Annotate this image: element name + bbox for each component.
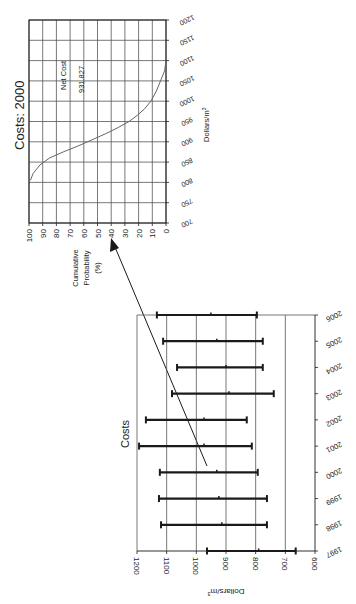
dollar-tick-label: 1150	[179, 34, 196, 47]
bottom-chart-ylabel: Dollars/m3	[208, 587, 245, 597]
bottom-ylabel-text: Dollars/m	[210, 587, 244, 596]
year-tick-label: 2001	[325, 440, 344, 455]
year-tick-label: 2002	[325, 414, 344, 429]
year-tick-label: 2005	[325, 335, 344, 350]
year-tick-label: 2004	[325, 361, 344, 376]
top-chart-ylabel: Cumulative Probability (%)	[71, 249, 102, 287]
bottom-chart-grid	[137, 315, 318, 554]
errorbar-1997	[207, 548, 296, 555]
probability-tick-label: 90	[39, 228, 48, 237]
top-chart-xlabel: Dollars/m3	[201, 107, 211, 142]
probability-tick-label: 40	[107, 228, 116, 237]
year-tick-label: 1998	[325, 518, 344, 533]
dollar-tick-label: 1200	[132, 557, 141, 575]
probability-tick-label: 30	[121, 228, 130, 237]
probability-tick-label: 100	[25, 228, 34, 242]
probability-tick-label: 50	[94, 228, 103, 237]
errorbar-2006	[157, 312, 257, 319]
bottom-chart-title: Costs	[119, 419, 131, 448]
dollar-tick-label: 950	[180, 116, 194, 127]
dollar-tick-label: 700	[280, 557, 289, 571]
dollar-tick-label: 1100	[162, 557, 171, 575]
errorbar-2003	[172, 390, 274, 397]
dollar-tick-label: 800	[251, 557, 260, 571]
dollar-tick-label: 850	[180, 157, 194, 168]
errorbar-series	[139, 312, 296, 555]
errorbar-2004	[177, 364, 263, 371]
dollar-tick-label: 1000	[178, 95, 195, 108]
dollar-tick-label: 800	[180, 177, 194, 188]
probability-tick-label: 10	[148, 228, 157, 237]
probability-tick-label: 60	[80, 228, 89, 237]
year-tick-label: 2000	[325, 466, 344, 481]
dollar-tick-labels: 70075080085090095010001050110011501200	[178, 14, 195, 229]
dollar-tick-label: 1000	[191, 557, 200, 575]
errorbar-2005	[163, 338, 263, 345]
top-xlabel-text: Dollars/m	[202, 110, 211, 142]
errorbar-1998	[161, 521, 267, 528]
year-tick-label: 2006	[325, 309, 344, 324]
top-chart-title: Costs: 2000	[12, 81, 27, 150]
dollar-tick-label: 1200	[178, 14, 195, 27]
dollar-tick-label: 1100	[179, 55, 196, 68]
dollar-axis-tick-labels: 120011001000900800700600	[132, 557, 319, 575]
year-tick-label: 2003	[325, 387, 344, 402]
errorbar-2000	[160, 469, 258, 476]
probability-tick-labels: 1009080706050403020100	[25, 228, 171, 242]
dollar-tick-label: 600	[310, 557, 319, 571]
ylabel-line-percent: (%)	[93, 262, 102, 274]
ylabel-line-probability: Probability	[82, 250, 91, 285]
top-chart-grid	[29, 20, 169, 226]
dollar-tick-label: 900	[180, 136, 194, 147]
top-xlabel-superscript: 3	[201, 107, 207, 110]
probability-tick-label: 0	[162, 228, 171, 233]
probability-tick-label: 80	[52, 228, 61, 237]
probability-tick-label: 20	[135, 228, 144, 237]
year-tick-label: 1999	[325, 492, 344, 507]
bottom-ylabel-superscript: 3	[208, 591, 211, 597]
dollar-tick-label: 700	[180, 218, 194, 229]
dollar-tick-label: 900	[221, 557, 230, 571]
ylabel-line-cumulative: Cumulative	[71, 249, 80, 287]
errorbar-1999	[159, 495, 267, 502]
dollar-tick-label: 1050	[178, 75, 195, 88]
errorbar-2001	[139, 443, 252, 450]
year-tick-labels: 1997199819992000200120022003200420052006	[325, 309, 344, 560]
dollar-tick-label: 750	[180, 197, 194, 208]
net-cost-value: 931.827	[77, 66, 86, 93]
probability-tick-label: 70	[66, 228, 75, 237]
arrow-head-icon	[110, 238, 119, 252]
net-cost-label: Net Cost	[59, 60, 68, 90]
costs-errorbar-chart: 120011001000900800700600 199719981999200…	[119, 309, 344, 597]
year-tick-label: 1997	[325, 545, 344, 560]
figure: 1009080706050403020100 70075080085090095…	[0, 0, 356, 604]
